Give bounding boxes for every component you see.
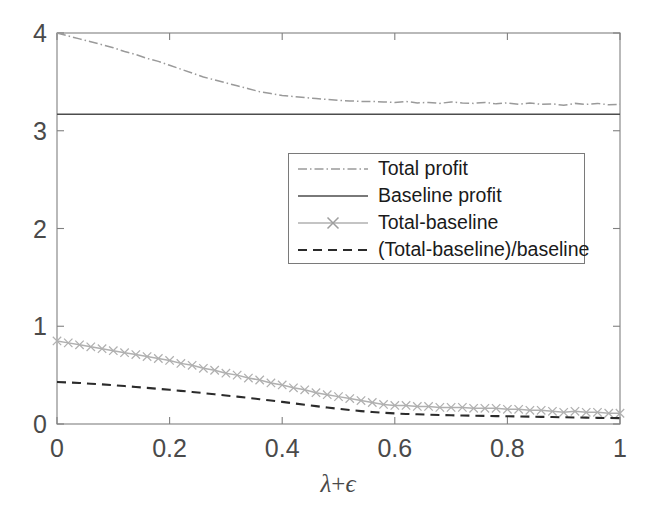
y-tick-label: 3 [5, 118, 47, 143]
legend-entry-total-profit: Total profit [289, 155, 584, 182]
epsilon-symbol: ϵ [345, 470, 355, 497]
y-tick-label: 1 [5, 314, 47, 339]
series-total-profit [57, 33, 620, 105]
legend-swatch-dashed-icon [296, 237, 370, 263]
series-line [57, 33, 620, 105]
legend-swatch-dash-dot-icon [296, 156, 370, 182]
legend: Total profit Baseline profit Total-basel… [288, 153, 585, 264]
legend-label-total-baseline: Total-baseline [378, 213, 498, 233]
y-tick-label: 0 [5, 412, 47, 437]
plus-symbol: + [331, 470, 345, 497]
series-total-baseline [53, 337, 624, 418]
series-total-baseline-baseline [57, 382, 620, 418]
legend-swatch-x-marker-icon [296, 210, 370, 236]
x-tick-label: 1 [613, 436, 627, 461]
legend-label-baseline-profit: Baseline profit [378, 186, 502, 206]
series-line [57, 341, 620, 413]
x-tick-label: 0.6 [377, 436, 412, 461]
x-tick-label: 0.2 [152, 436, 187, 461]
legend-label-ratio: (Total-baseline)/baseline [378, 240, 589, 260]
legend-label-total-profit: Total profit [378, 159, 468, 179]
x-tick-label: 0.4 [265, 436, 300, 461]
x-tick-label: 0.8 [490, 436, 525, 461]
legend-swatch-solid-icon [296, 183, 370, 209]
y-tick-label: 4 [5, 21, 47, 46]
series-line [57, 382, 620, 418]
legend-entry-baseline-profit: Baseline profit [289, 182, 584, 209]
legend-entry-total-baseline: Total-baseline [289, 209, 584, 236]
x-axis-title: λ+ϵ [320, 470, 355, 498]
y-tick-label: 2 [5, 216, 47, 241]
chart-figure: 01234 00.20.40.60.81 λ+ϵ Total profit Ba… [0, 0, 648, 510]
lambda-symbol: λ [320, 470, 331, 497]
legend-entry-ratio: (Total-baseline)/baseline [289, 236, 584, 263]
x-tick-label: 0 [50, 436, 64, 461]
